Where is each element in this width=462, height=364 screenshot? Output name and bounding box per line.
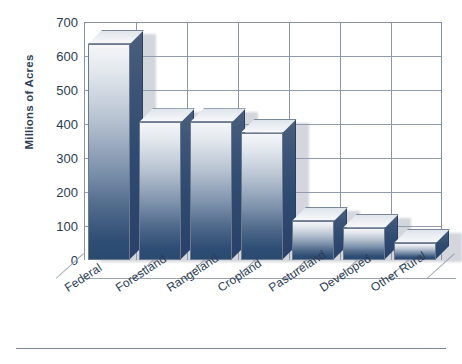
- x-tick-label-forestland: Forestland: [113, 252, 169, 295]
- x-tick-label-federal: Federal: [62, 260, 104, 294]
- x-tick-label-pastureland: Pastureland: [266, 248, 328, 295]
- bottom-divider: [16, 348, 446, 349]
- bar-chart: Millions of Acres 700 600 500 400 300 20…: [0, 0, 462, 364]
- x-tick-label-rangeland: Rangeland: [164, 251, 221, 295]
- x-tick-label-other-rural: Other Rural: [368, 249, 429, 295]
- x-axis-tick-labels: Federal Forestland Rangeland Cropland Pa…: [0, 0, 462, 364]
- x-tick-label-cropland: Cropland: [215, 256, 264, 295]
